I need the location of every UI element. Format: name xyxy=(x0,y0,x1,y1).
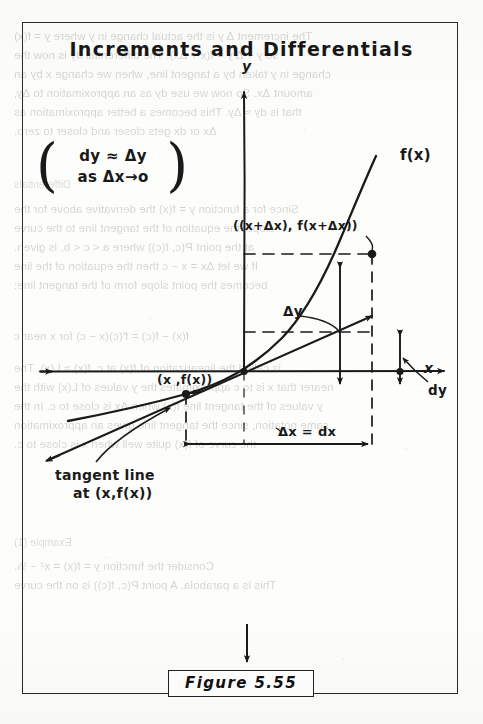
formula-line-2: as Δx→o xyxy=(58,167,168,188)
paren-left: ( xyxy=(36,135,58,196)
tangent-annotation-line-1: tangent line xyxy=(55,466,155,484)
paren-right: ) xyxy=(166,135,188,196)
dy-label: dy xyxy=(428,382,447,398)
approximation-formula: ( dy ≈ Δy as Δx→o ) xyxy=(36,136,188,198)
figure-drawing xyxy=(0,0,483,724)
formula-line-1: dy ≈ Δy xyxy=(58,146,168,167)
y-axis-label: y xyxy=(242,58,251,74)
x-axis-label: x xyxy=(424,360,433,376)
delta-y-label: Δy xyxy=(283,303,303,319)
tangent-line-annotation: tangent line at (x,f(x)) xyxy=(55,466,155,502)
figure-caption: Figure 5.55 xyxy=(168,670,314,697)
scanned-page: The increment Δ y is the actual change i… xyxy=(0,0,483,724)
delta-x-equals-dx-label: Δx = dx xyxy=(278,424,336,439)
curve-label: f(x) xyxy=(400,146,431,164)
lower-point-label: (x ,f(x)) xyxy=(157,372,212,387)
upper-point-label: ((x+Δx), f(x+Δx)) xyxy=(233,218,358,233)
tangent-annotation-line-2: at (x,f(x)) xyxy=(73,484,155,502)
